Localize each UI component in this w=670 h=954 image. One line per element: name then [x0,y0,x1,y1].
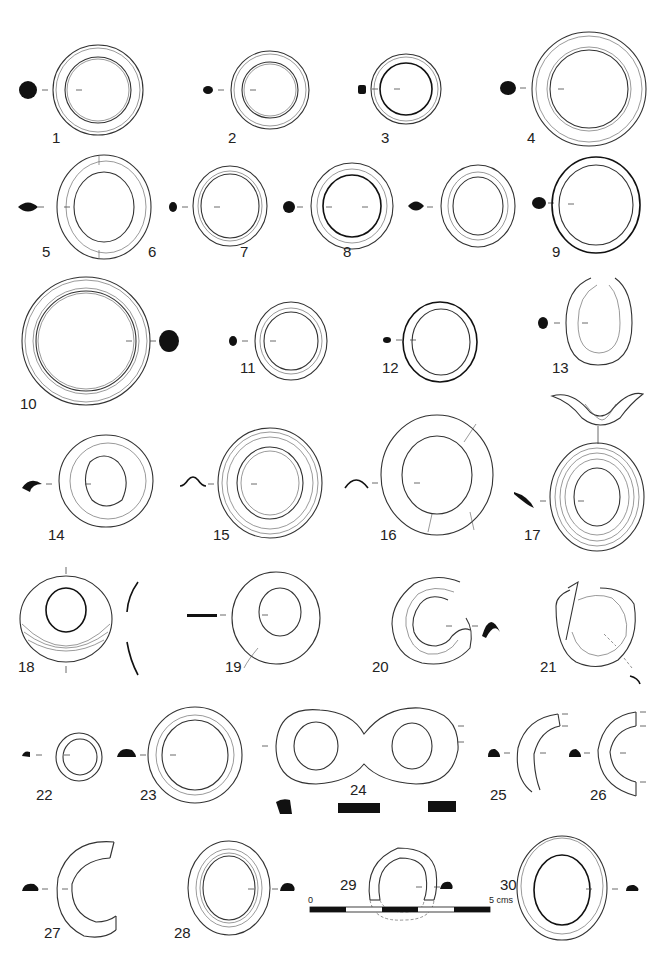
artefact-3: 3 [358,54,441,146]
artefact-label: 17 [524,526,541,543]
artefact-label: 14 [48,526,65,543]
artefact-20: 20 [372,577,500,675]
artefact-27: 27 [22,842,116,941]
artefact-label: 27 [44,924,61,941]
artefact-plate: 1 2 3 4 5 [0,0,670,954]
artefact-12: 12 [382,302,477,382]
artefact-9: 9 [532,157,640,260]
artefact-label: 16 [380,526,397,543]
artefact-16: 16 [345,415,493,543]
artefact-23: 23 [117,707,242,803]
artefact-11: 11 [229,302,327,380]
artefact-24: 24 [262,708,464,814]
artefact-2: 2 [203,51,309,146]
artefact-label: 21 [540,658,557,675]
artefact-label: 1 [52,129,60,146]
scale-start-label: 0 [308,895,313,905]
artefact-22: 22 [22,733,102,803]
artefact-label: 30 [500,876,517,893]
artefact-label: 19 [225,658,242,675]
artefact-25: 25 [488,714,568,803]
scale-end-label: 5 cms [489,895,514,905]
artefact-26: 26 [569,712,646,803]
artefact-label: 28 [174,924,191,941]
artefact-label: 2 [228,129,236,146]
artefact-10: 10 [20,277,179,412]
artefact-13: 13 [538,278,632,376]
artefact-label: 18 [18,658,35,675]
artefact-label: 24 [350,781,367,798]
artefact-14: 14 [22,435,153,543]
artefact-label: 9 [552,243,560,260]
artefact-30: 30 [500,836,639,940]
artefact-28: 28 [174,841,295,941]
artefact-label: 8 [343,243,351,260]
artefact-label: 15 [213,526,230,543]
artefact-label: 7 [240,243,248,260]
artefact-label: 6 [148,243,156,260]
artefact-label: 12 [382,359,399,376]
artefact-6: 6 [148,166,267,260]
artefact-15: 15 [180,428,322,543]
artefact-17: 17 [514,393,644,551]
artefact-label: 4 [527,129,535,146]
artefact-label: 23 [140,786,157,803]
artefact-label: 29 [340,876,357,893]
artefact-label: 20 [372,658,389,675]
scale-bar: 0 5 cms [308,895,514,912]
artefact-21: 21 [540,582,640,684]
artefact-label: 5 [42,243,50,260]
artefact-label: 13 [552,359,569,376]
artefact-label: 3 [381,129,389,146]
artefact-18: 18 [18,567,138,675]
artefact-label: 11 [240,359,256,376]
artefact-label: 22 [36,786,53,803]
artefact-label: 26 [590,786,607,803]
artefact-1: 1 [19,45,143,146]
artefact-7: 7 [240,163,393,260]
artefact-4: 4 [500,32,646,146]
artefact-5: 5 [18,155,151,260]
artefact-19: 19 [187,572,320,675]
artefact-label: 25 [490,786,507,803]
artefact-label: 10 [20,395,37,412]
